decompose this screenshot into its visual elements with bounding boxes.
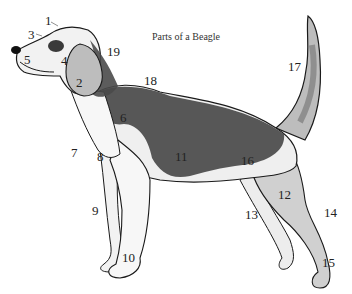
label-1: 1 — [45, 14, 52, 27]
beagle-illustration — [0, 0, 352, 294]
label-18: 18 — [144, 74, 157, 87]
label-13: 13 — [245, 208, 258, 221]
eye-patch — [48, 40, 64, 52]
label-3: 3 — [28, 28, 35, 41]
beagle-diagram: Parts of a Beagle 1 2 3 4 5 6 7 8 9 10 1… — [0, 0, 352, 294]
label-15: 15 — [322, 256, 335, 269]
label-9: 9 — [92, 204, 99, 217]
label-11: 11 — [175, 150, 188, 163]
diagram-title: Parts of a Beagle — [152, 31, 220, 42]
label-14: 14 — [324, 206, 337, 219]
label-12: 12 — [278, 188, 291, 201]
label-10: 10 — [122, 251, 135, 264]
label-8: 8 — [97, 150, 104, 163]
label-6: 6 — [120, 111, 127, 124]
nose — [11, 46, 21, 54]
label-16: 16 — [241, 154, 254, 167]
label-7: 7 — [71, 146, 78, 159]
label-19: 19 — [107, 45, 120, 58]
label-17: 17 — [288, 60, 301, 73]
label-5: 5 — [24, 53, 31, 66]
label-2: 2 — [76, 76, 83, 89]
label-4: 4 — [61, 54, 68, 67]
